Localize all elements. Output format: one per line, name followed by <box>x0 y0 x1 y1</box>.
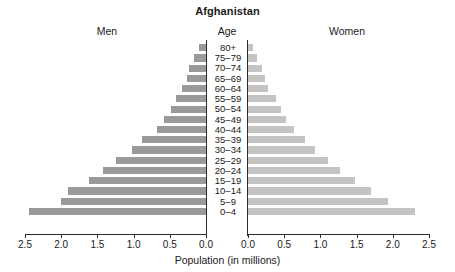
bar-men-55-59 <box>176 95 206 102</box>
bar-men-0-4 <box>29 208 206 215</box>
bar-men-25-29 <box>116 157 206 164</box>
bar-men-60-64 <box>182 85 206 92</box>
x-axis-title: Population (in millions) <box>0 254 455 266</box>
x-axis-left-tick-2.5 <box>25 234 26 238</box>
bar-women-75-79 <box>248 54 257 61</box>
x-axis-right-tick-label-2.0: 2.0 <box>373 239 413 250</box>
x-axis-right-tick-label-0.0: 0.0 <box>228 239 268 250</box>
bar-women-55-59 <box>248 95 276 102</box>
x-axis-left-tick-label-0.5: 0.5 <box>150 239 190 250</box>
bar-women-30-34 <box>248 146 315 153</box>
x-axis-right-tick-label-0.5: 0.5 <box>264 239 304 250</box>
bar-women-60-64 <box>248 85 268 92</box>
women-panel-header: Women <box>302 25 392 37</box>
x-axis-right-tick-1.0 <box>320 234 321 238</box>
x-axis-left-tick-label-1.5: 1.5 <box>77 239 117 250</box>
bar-men-50-54 <box>171 106 206 113</box>
x-axis-left-tick-label-2.5: 2.5 <box>5 239 45 250</box>
bar-men-20-24 <box>103 167 206 174</box>
x-axis-left <box>25 234 207 235</box>
men-panel-header: Men <box>62 25 152 37</box>
x-axis-left-tick-1.0 <box>134 234 135 238</box>
x-axis-right-tick-2.5 <box>429 234 430 238</box>
bar-women-25-29 <box>248 157 328 164</box>
bar-men-30-34 <box>132 146 206 153</box>
bar-women-15-19 <box>248 177 355 184</box>
x-axis-right-tick-label-2.5: 2.5 <box>409 239 449 250</box>
x-axis-left-tick-0.5 <box>170 234 171 238</box>
bar-women-40-44 <box>248 126 294 133</box>
bar-women-5-9 <box>248 198 388 205</box>
bar-men-5-9 <box>61 198 206 205</box>
x-axis-left-tick-1.5 <box>97 234 98 238</box>
x-axis-right-tick-1.5 <box>357 234 358 238</box>
x-axis-right <box>248 234 430 235</box>
x-axis-right-tick-2.0 <box>393 234 394 238</box>
bar-women-50-54 <box>248 106 281 113</box>
age-column-header: Age <box>182 25 272 37</box>
x-axis-right-tick-label-1.5: 1.5 <box>337 239 377 250</box>
age-label-column: 80+75–7970–7465–6960–6455–5950–5445–4940… <box>206 40 248 236</box>
bar-men-35-39 <box>142 136 206 143</box>
x-axis-left-tick-2.0 <box>61 234 62 238</box>
x-axis-left-tick-label-2.0: 2.0 <box>41 239 81 250</box>
bar-men-40-44 <box>157 126 206 133</box>
age-label-0-4: 0–4 <box>207 207 249 217</box>
bar-women-0-4 <box>248 208 415 215</box>
bar-women-70-74 <box>248 65 262 72</box>
bar-men-75-79 <box>194 54 206 61</box>
x-axis-right-tick-0.0 <box>248 234 249 238</box>
bar-women-45-49 <box>248 116 286 123</box>
x-axis-right-tick-label-1.0: 1.0 <box>300 239 340 250</box>
x-axis-right-tick-0.5 <box>284 234 285 238</box>
bar-men-45-49 <box>164 116 206 123</box>
population-pyramid-chart: Afghanistan Men Age Women 80+75–7970–746… <box>0 0 455 272</box>
page-title: Afghanistan <box>0 5 455 17</box>
x-axis-left-tick-label-0.0: 0.0 <box>186 239 226 250</box>
bar-men-70-74 <box>189 65 206 72</box>
bar-men-15-19 <box>89 177 206 184</box>
bar-men-65-69 <box>187 75 206 82</box>
bar-women-35-39 <box>248 136 305 143</box>
x-axis-left-tick-label-1.0: 1.0 <box>114 239 154 250</box>
x-axis-left-tick-0.0 <box>206 234 207 238</box>
bar-men-10-14 <box>68 187 206 194</box>
bar-women-65-69 <box>248 75 265 82</box>
bar-women-10-14 <box>248 187 371 194</box>
bar-women-20-24 <box>248 167 340 174</box>
